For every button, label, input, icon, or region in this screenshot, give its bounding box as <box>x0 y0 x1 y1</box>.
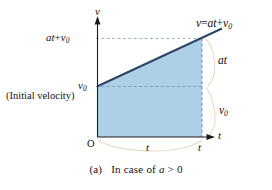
equation-label-v0-subscript: 0 <box>228 22 232 31</box>
initial-velocity-note: (Initial velocity) <box>6 91 75 102</box>
velocity-time-graph-figure: v=at+v0 v t at+v0 v0 (Initial velocity) … <box>0 0 272 190</box>
brace-label-at: at <box>218 55 227 67</box>
x-axis-label: t <box>218 130 221 141</box>
caption-index: (a) <box>89 163 102 175</box>
brace-label-v0: v0 <box>219 105 228 118</box>
y-tick-v0-base-subscript: 0 <box>83 84 87 93</box>
shaded-area-under-curve <box>98 38 202 137</box>
y-tick-v0-subscript: 0 <box>66 36 70 45</box>
y-axis-label: v <box>95 6 100 17</box>
brace-label-v0-subscript: 0 <box>224 109 228 118</box>
brace-label-t: t <box>146 142 149 153</box>
equation-label: v=at+v0 <box>196 18 232 31</box>
brace-at-icon <box>206 39 215 86</box>
figure-caption: (a)In case of a > 0 <box>0 163 272 175</box>
caption-condition-variable: a <box>159 163 165 175</box>
caption-condition-rest: > 0 <box>168 163 183 175</box>
brace-t-icon <box>98 140 202 151</box>
equation-label-at: at <box>208 17 217 29</box>
brace-v0-icon <box>206 88 215 137</box>
x-tick-label-t: t <box>198 142 201 153</box>
caption-text: In case of <box>111 163 156 175</box>
y-tick-at: at <box>46 31 55 43</box>
y-tick-label-at-plus-v0: at+v0 <box>46 32 69 45</box>
origin-label: O <box>87 139 95 150</box>
x-axis-arrowhead-icon <box>207 134 216 140</box>
y-tick-label-v0: v0 <box>78 80 87 93</box>
y-axis-arrowhead-icon <box>95 16 101 25</box>
